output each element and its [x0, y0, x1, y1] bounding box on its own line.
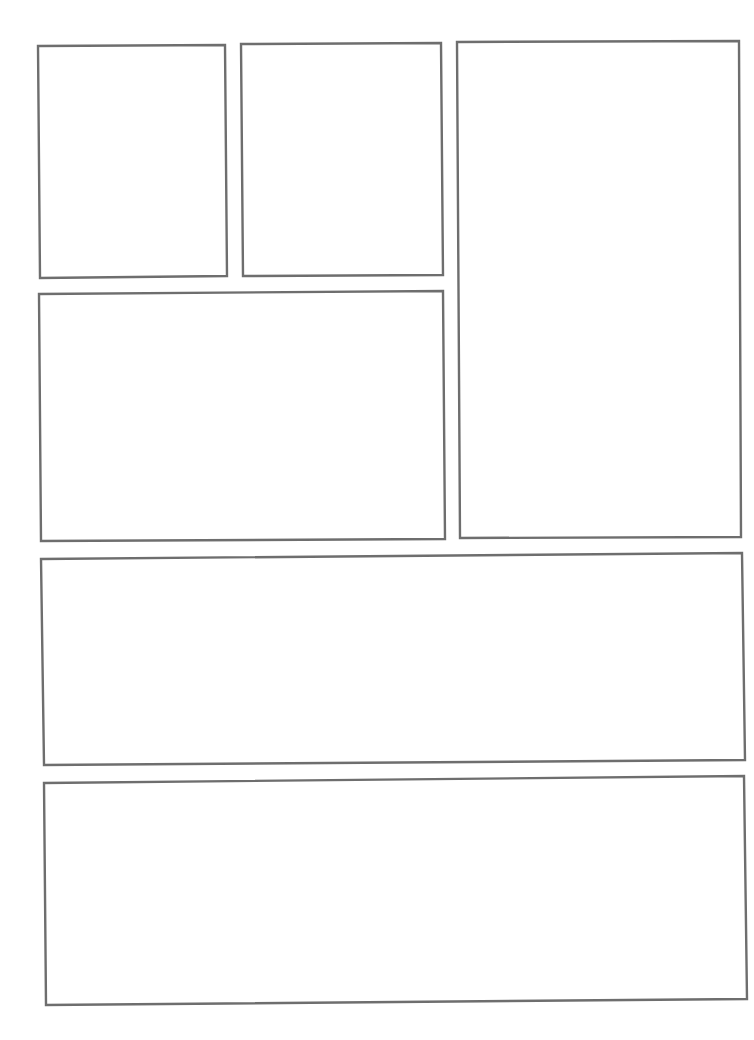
panel-1	[38, 45, 227, 278]
panel-4	[39, 291, 445, 541]
panel-2	[241, 43, 443, 276]
comic-page	[0, 0, 754, 1040]
panel-6	[44, 776, 747, 1005]
panel-5	[41, 553, 745, 765]
panel-3	[457, 41, 741, 538]
